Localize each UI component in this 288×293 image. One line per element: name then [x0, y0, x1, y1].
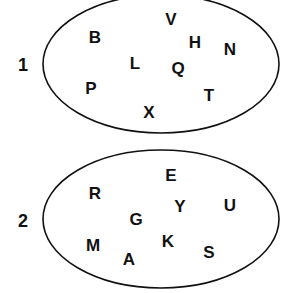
- letter-y: Y: [174, 197, 186, 216]
- set-1: 1 B V H N L Q P T X: [18, 0, 279, 133]
- letter-q: Q: [171, 59, 184, 78]
- set-2-label: 2: [18, 211, 28, 231]
- letter-a: A: [123, 250, 135, 269]
- letter-sets-diagram: 1 B V H N L Q P T X 2 E R Y U G M K S A: [0, 0, 288, 293]
- letter-r: R: [89, 184, 101, 203]
- letter-m: M: [86, 236, 100, 255]
- letter-p: P: [85, 79, 96, 98]
- letter-l: L: [130, 54, 140, 73]
- letter-k: K: [162, 232, 175, 251]
- letter-h: H: [189, 33, 201, 52]
- letter-n: N: [224, 40, 236, 59]
- letter-g: G: [129, 210, 142, 229]
- set-1-ellipse: [43, 0, 279, 133]
- letter-e: E: [165, 166, 176, 185]
- set-2-ellipse: [43, 150, 279, 288]
- letter-x: X: [143, 103, 155, 122]
- set-1-label: 1: [18, 55, 28, 75]
- letter-u: U: [224, 196, 236, 215]
- letter-t: T: [204, 86, 215, 105]
- letter-b: B: [89, 28, 101, 47]
- letter-v: V: [165, 10, 177, 29]
- set-2: 2 E R Y U G M K S A: [18, 150, 279, 288]
- letter-s: S: [203, 243, 214, 262]
